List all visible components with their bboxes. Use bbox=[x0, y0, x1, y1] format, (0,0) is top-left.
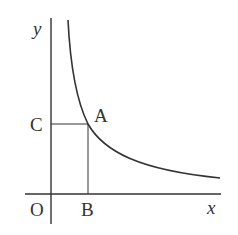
point-C-label: C bbox=[30, 114, 43, 135]
x-axis-label: x bbox=[206, 197, 216, 218]
origin-label: O bbox=[30, 199, 44, 220]
diagram-canvas: y x O B C A bbox=[0, 0, 238, 235]
point-B-label: B bbox=[81, 199, 94, 220]
y-axis-label: y bbox=[31, 18, 42, 39]
hyperbola-curve bbox=[68, 20, 220, 178]
diagram-svg: y x O B C A bbox=[0, 0, 238, 235]
point-A-label: A bbox=[94, 105, 108, 126]
